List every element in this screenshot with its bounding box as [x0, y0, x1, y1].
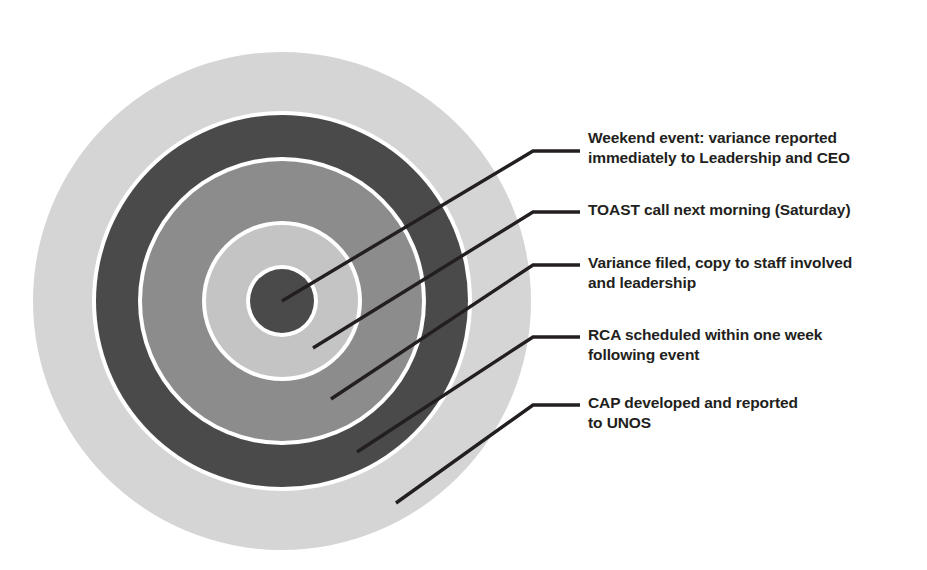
callout-label-weekend-event: Weekend event: variance reported immedia… [588, 128, 918, 167]
callout-label-cap-developed: CAP developed and reported to UNOS [588, 393, 918, 432]
callout-label-toast-call: TOAST call next morning (Saturday) [588, 200, 918, 220]
callout-label-rca-scheduled: RCA scheduled within one week following … [588, 325, 918, 364]
diagram-page: Weekend event: variance reported immedia… [0, 0, 927, 570]
callout-label-variance-filed: Variance filed, copy to staff involved a… [588, 253, 918, 292]
